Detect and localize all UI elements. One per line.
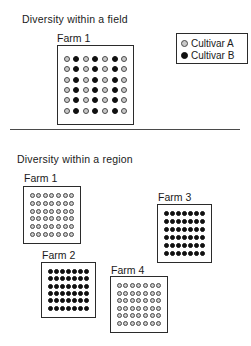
cultivar-b-dot bbox=[60, 269, 65, 274]
cultivar-a-dot bbox=[69, 209, 74, 214]
cultivar-a-dot bbox=[156, 291, 161, 296]
cultivar-a-dot bbox=[156, 306, 161, 311]
cultivar-a-dot bbox=[143, 321, 148, 326]
cultivar-a-dot bbox=[117, 313, 122, 318]
cultivar-a-dot bbox=[49, 193, 54, 198]
cultivar-a-dot bbox=[121, 56, 127, 62]
cultivar-a-dot bbox=[136, 306, 141, 311]
cultivar-a-dot bbox=[64, 87, 70, 93]
cultivar-a-dot bbox=[64, 77, 70, 83]
cultivar-b-dot bbox=[78, 284, 83, 289]
cultivar-a-dot bbox=[83, 87, 89, 93]
region-farm-4-box bbox=[110, 276, 168, 333]
cultivar-b-dot bbox=[73, 66, 79, 72]
legend-item-cultivar-b: Cultivar B bbox=[181, 50, 244, 61]
cultivar-b-dot bbox=[176, 243, 181, 248]
cultivar-a-dot bbox=[136, 283, 141, 288]
cultivar-b-dot bbox=[182, 219, 187, 224]
cultivar-a-dot bbox=[83, 97, 89, 103]
cultivar-a-dot bbox=[43, 216, 48, 221]
cultivar-b-dot bbox=[182, 251, 187, 256]
cultivar-a-dot bbox=[56, 201, 61, 206]
cultivar-a-dot bbox=[123, 313, 128, 318]
cultivar-a-dot bbox=[102, 87, 108, 93]
cultivar-a-dot bbox=[130, 321, 135, 326]
cultivar-b-dot bbox=[66, 284, 71, 289]
cultivar-b-dot bbox=[182, 243, 187, 248]
cultivar-b-dot bbox=[188, 219, 193, 224]
cultivar-a-dot bbox=[117, 306, 122, 311]
cultivar-b-dot bbox=[182, 235, 187, 240]
cultivar-a-dot bbox=[83, 66, 89, 72]
cultivar-b-dot bbox=[188, 243, 193, 248]
cultivar-a-dot bbox=[123, 291, 128, 296]
cultivar-a-dot bbox=[143, 306, 148, 311]
diversity-diagram: Diversity within a field Farm 1 Cultivar… bbox=[0, 0, 251, 346]
cultivar-a-dot bbox=[43, 232, 48, 237]
cultivar-a-dot bbox=[121, 108, 127, 114]
cultivar-b-dot bbox=[112, 77, 118, 83]
cultivar-b-dot bbox=[54, 276, 59, 281]
cultivar-a-dot bbox=[49, 232, 54, 237]
cultivar-b-dot bbox=[176, 251, 181, 256]
cultivar-a-dot bbox=[56, 193, 61, 198]
cultivar-a-dot bbox=[117, 283, 122, 288]
cultivar-a-dot bbox=[69, 224, 74, 229]
cultivar-a-dot bbox=[150, 298, 155, 303]
region-farm-1-box bbox=[23, 186, 81, 244]
cultivar-b-dot bbox=[164, 219, 169, 224]
cultivar-b-dot bbox=[92, 56, 98, 62]
cultivar-b-dot bbox=[200, 251, 205, 256]
cultivar-a-dot bbox=[36, 193, 41, 198]
section-divider bbox=[10, 129, 240, 130]
cultivar-a-dot bbox=[121, 87, 127, 93]
cultivar-b-dot bbox=[92, 108, 98, 114]
cultivar-b-dot bbox=[60, 298, 65, 303]
cultivar-b-dot bbox=[164, 235, 169, 240]
cultivar-b-dot bbox=[60, 306, 65, 311]
cultivar-a-dot bbox=[49, 209, 54, 214]
cultivar-a-dot bbox=[36, 201, 41, 206]
cultivar-a-dot bbox=[150, 321, 155, 326]
cultivar-a-dot bbox=[43, 224, 48, 229]
cultivar-a-dot bbox=[43, 209, 48, 214]
cultivar-b-dot bbox=[84, 276, 89, 281]
cultivar-a-dot bbox=[30, 216, 35, 221]
cultivar-b-dot bbox=[188, 211, 193, 216]
cultivar-b-dot bbox=[84, 284, 89, 289]
cultivar-a-dot bbox=[64, 56, 70, 62]
cultivar-b-dot bbox=[66, 306, 71, 311]
cultivar-a-dot bbox=[121, 77, 127, 83]
cultivar-b-dot bbox=[54, 269, 59, 274]
cultivar-a-dot bbox=[69, 193, 74, 198]
field-farm-1-label: Farm 1 bbox=[57, 32, 90, 44]
cultivar-b-dot bbox=[66, 298, 71, 303]
field-farm-1-box bbox=[57, 45, 134, 125]
cultivar-a-dot bbox=[150, 313, 155, 318]
cultivar-b-dot bbox=[72, 298, 77, 303]
cultivar-a-dot bbox=[83, 77, 89, 83]
legend-label-cultivar-a: Cultivar A bbox=[191, 38, 234, 49]
cultivar-a-dot bbox=[123, 283, 128, 288]
cultivar-b-dot bbox=[182, 211, 187, 216]
cultivar-a-dot bbox=[56, 209, 61, 214]
cultivar-b-dot bbox=[176, 219, 181, 224]
cultivar-a-dot bbox=[156, 321, 161, 326]
cultivar-b-dot bbox=[48, 276, 53, 281]
cultivar-b-dot bbox=[54, 306, 59, 311]
field-section-title: Diversity within a field bbox=[22, 13, 128, 25]
cultivar-a-dot bbox=[43, 193, 48, 198]
cultivar-a-dot bbox=[130, 283, 135, 288]
legend-label-cultivar-b: Cultivar B bbox=[191, 50, 234, 61]
cultivar-b-dot bbox=[112, 108, 118, 114]
cultivar-a-dot bbox=[64, 66, 70, 72]
cultivar-a-dot bbox=[56, 224, 61, 229]
region-farm-2-box bbox=[41, 262, 96, 318]
cultivar-b-dot bbox=[92, 97, 98, 103]
cultivar-a-dot bbox=[130, 298, 135, 303]
region-farm-3-label: Farm 3 bbox=[158, 191, 191, 203]
cultivar-a-dot bbox=[143, 298, 148, 303]
cultivar-b-dot bbox=[176, 211, 181, 216]
cultivar-a-dot bbox=[143, 291, 148, 296]
cultivar-b-dot bbox=[200, 227, 205, 232]
